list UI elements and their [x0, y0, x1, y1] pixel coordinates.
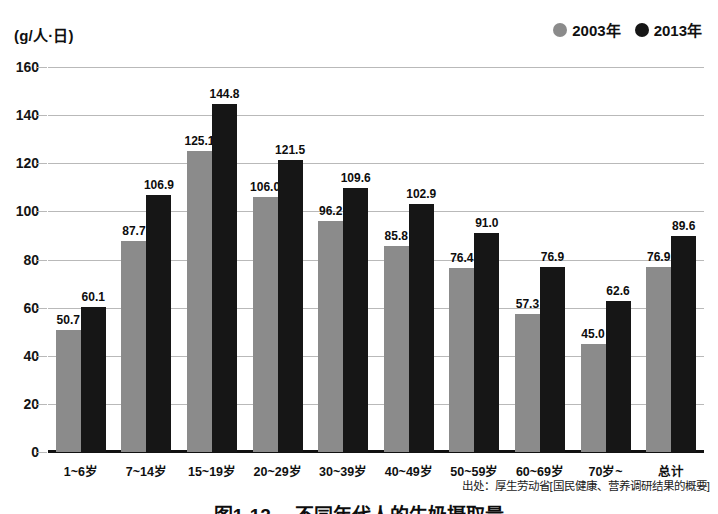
- bar-value-label: 60.1: [82, 290, 105, 304]
- bar-2003年[interactable]: 96.2: [318, 221, 343, 452]
- source-note: 出处：厚生劳动省[国民健康、营养调研结果的概要]: [462, 477, 710, 493]
- bar-2003年[interactable]: 50.7: [56, 330, 81, 452]
- y-axis-tick-mark: [37, 67, 47, 68]
- bar-group: 57.376.960~69岁: [507, 67, 573, 452]
- bar-group: 96.2109.630~39岁: [310, 67, 376, 452]
- bar-group: 125.1144.815~19岁: [179, 67, 245, 452]
- bar-2013年[interactable]: 144.8: [212, 104, 237, 452]
- bar-chart: (g/人·日) 2003年 2013年 02040608010012014016…: [0, 0, 718, 514]
- bar-group: 76.491.050~59岁: [442, 67, 508, 452]
- y-axis-tick-label: 120: [16, 155, 39, 171]
- bar-value-label: 144.8: [209, 87, 239, 101]
- y-axis-tick-mark: [37, 356, 47, 357]
- filled-circle-icon-2003: [553, 23, 567, 37]
- bar-2013年[interactable]: 62.6: [606, 301, 631, 452]
- y-axis-unit-label: (g/人·日): [14, 24, 74, 45]
- bar-value-label: 76.9: [647, 250, 670, 264]
- bar-2013年[interactable]: 60.1: [81, 307, 106, 452]
- y-axis-tick-mark: [37, 452, 47, 453]
- bar-2003年[interactable]: 76.4: [449, 268, 474, 452]
- y-axis-tick-mark: [37, 404, 47, 405]
- bar-group: 106.0121.520~29岁: [245, 67, 311, 452]
- bar-group: 85.8102.940~49岁: [376, 67, 442, 452]
- bar-2003年[interactable]: 87.7: [121, 241, 146, 452]
- y-axis-tick-mark: [37, 211, 47, 212]
- y-axis-tick-mark: [37, 308, 47, 309]
- x-axis-category-label: 20~29岁: [254, 461, 302, 480]
- bar-value-label: 50.7: [57, 313, 80, 327]
- bar-2003年[interactable]: 106.0: [253, 197, 278, 452]
- chart-legend: 2003年 2013年: [553, 19, 702, 40]
- bar-value-label: 106.0: [250, 180, 280, 194]
- legend-label-2003: 2003年: [572, 19, 620, 40]
- legend-label-2013: 2013年: [654, 19, 702, 40]
- bar-value-label: 121.5: [275, 143, 305, 157]
- bar-group: 76.989.6总计: [638, 67, 704, 452]
- y-axis-tick-label: 140: [16, 107, 39, 123]
- bar-value-label: 96.2: [319, 204, 342, 218]
- bar-2003年[interactable]: 125.1: [187, 151, 212, 452]
- y-axis-tick-label: 100: [16, 203, 39, 219]
- x-axis-category-label: 30~39岁: [319, 461, 367, 480]
- figure-title: 图1-12 不同年代人的牛奶摄取量: [0, 500, 718, 514]
- bar-2013年[interactable]: 121.5: [278, 160, 303, 452]
- bar-value-label: 125.1: [184, 134, 214, 148]
- bar-value-label: 57.3: [516, 297, 539, 311]
- bar-value-label: 106.9: [144, 178, 174, 192]
- bar-value-label: 62.6: [606, 284, 629, 298]
- bar-value-label: 45.0: [581, 327, 604, 341]
- bar-2003年[interactable]: 57.3: [515, 314, 540, 452]
- bar-groups: 50.760.11~6岁87.7106.97~14岁125.1144.815~1…: [48, 67, 704, 452]
- x-axis-category-label: 40~49岁: [385, 461, 433, 480]
- y-axis-tick-label: 160: [16, 59, 39, 75]
- bar-value-label: 91.0: [475, 216, 498, 230]
- bar-group: 87.7106.97~14岁: [114, 67, 180, 452]
- bar-value-label: 76.4: [450, 251, 473, 265]
- bar-2003年[interactable]: 76.9: [646, 267, 671, 452]
- legend-item-2003: 2003年: [553, 19, 620, 40]
- bar-value-label: 89.6: [672, 219, 695, 233]
- x-axis-category-label: 7~14岁: [126, 461, 167, 480]
- bar-value-label: 85.8: [385, 229, 408, 243]
- y-axis-tick-mark: [37, 115, 47, 116]
- bar-value-label: 76.9: [541, 250, 564, 264]
- bar-value-label: 102.9: [406, 187, 436, 201]
- bar-2013年[interactable]: 102.9: [409, 204, 434, 452]
- bar-value-label: 109.6: [341, 171, 371, 185]
- bar-2013年[interactable]: 109.6: [343, 188, 368, 452]
- bar-value-label: 87.7: [122, 224, 145, 238]
- filled-circle-icon-2013: [635, 23, 649, 37]
- bar-2013年[interactable]: 89.6: [671, 236, 696, 452]
- y-axis-tick-mark: [37, 260, 47, 261]
- x-axis-category-label: 15~19岁: [188, 461, 236, 480]
- bar-group: 50.760.11~6岁: [48, 67, 114, 452]
- bar-2013年[interactable]: 91.0: [474, 233, 499, 452]
- y-axis-tick-mark: [37, 163, 47, 164]
- x-axis-category-label: 1~6岁: [64, 461, 98, 480]
- plot-area: 020406080100120140160 50.760.11~6岁87.710…: [48, 67, 704, 452]
- bar-2003年[interactable]: 85.8: [384, 246, 409, 452]
- bar-group: 45.062.670岁~: [573, 67, 639, 452]
- bar-2003年[interactable]: 45.0: [581, 344, 606, 452]
- legend-item-2013: 2013年: [635, 19, 702, 40]
- bar-2013年[interactable]: 106.9: [146, 195, 171, 452]
- bar-2013年[interactable]: 76.9: [540, 267, 565, 452]
